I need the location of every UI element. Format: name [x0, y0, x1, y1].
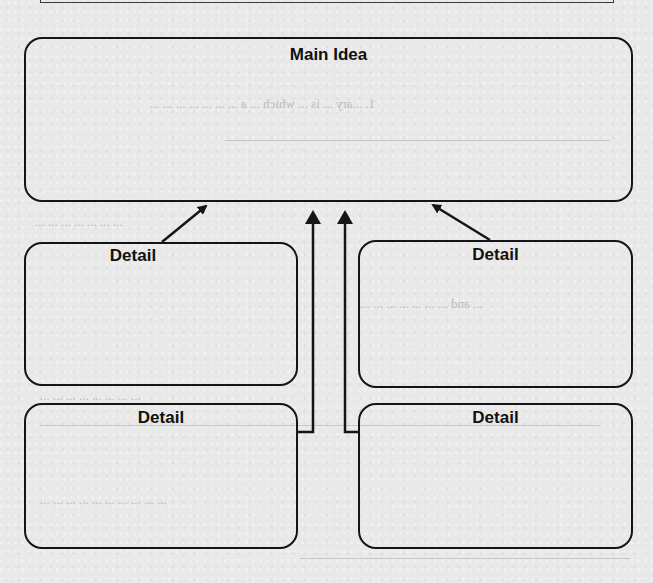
connector-arrows: [0, 0, 653, 583]
arrow-bottom-left: [297, 220, 313, 432]
arrow-top-left: [162, 206, 206, 242]
arrow-bottom-right: [345, 220, 359, 432]
arrow-top-right: [433, 205, 490, 240]
